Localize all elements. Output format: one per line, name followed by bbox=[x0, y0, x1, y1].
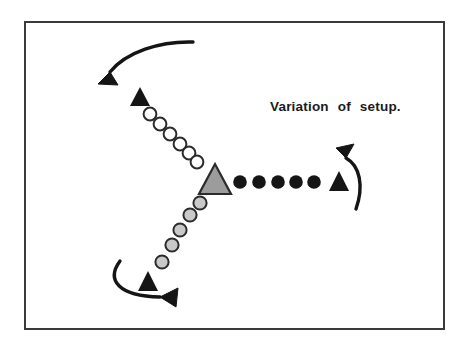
open-circle-2 bbox=[154, 118, 167, 131]
diagram-background bbox=[0, 0, 472, 346]
black-circle-2 bbox=[252, 175, 266, 189]
black-circle-4 bbox=[289, 175, 303, 189]
open-circle-1 bbox=[144, 108, 157, 121]
gray-circle-4 bbox=[165, 238, 178, 251]
black-circle-5 bbox=[307, 175, 321, 189]
diagram-caption: Variation of setup. bbox=[270, 99, 401, 114]
open-circle-3 bbox=[164, 128, 177, 141]
diagram-root: Variation of setup. bbox=[0, 0, 472, 346]
black-circle-3 bbox=[271, 175, 285, 189]
gray-circle-2 bbox=[183, 208, 196, 221]
gray-circle-5 bbox=[155, 255, 168, 268]
black-circle-1 bbox=[233, 175, 247, 189]
gray-circle-3 bbox=[173, 223, 186, 236]
open-circle-6 bbox=[191, 156, 204, 169]
gray-circle-1 bbox=[193, 196, 206, 209]
diagram-canvas: Variation of setup. bbox=[0, 0, 472, 346]
